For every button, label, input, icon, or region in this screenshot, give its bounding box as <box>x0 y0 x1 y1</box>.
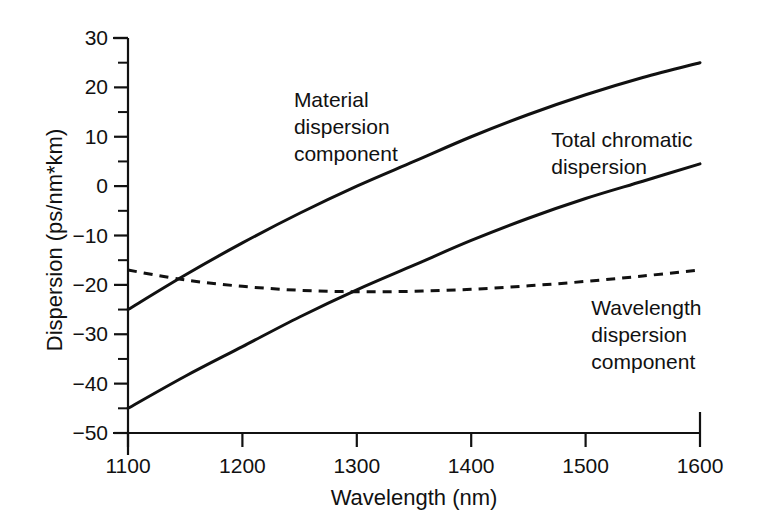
x-tick-label: 1100 <box>105 454 150 477</box>
y-tick-label: −40 <box>72 372 108 395</box>
chart-canvas: 3020100−10−20−30−40−50 11001200130014001… <box>0 0 760 530</box>
y-tick-label: 20 <box>85 75 108 98</box>
y-tick-label: −10 <box>72 224 108 247</box>
x-tick-label: 1300 <box>333 454 380 477</box>
y-tick-label: 30 <box>85 26 108 49</box>
x-axis-title: Wavelength (nm) <box>331 485 498 510</box>
y-tick-label: −50 <box>72 421 108 444</box>
dispersion-chart-figure: 3020100−10−20−30−40−50 11001200130014001… <box>0 0 760 530</box>
wavelength-dispersion-label: Wavelengthdispersioncomponent <box>591 296 701 373</box>
annotation-line: Material <box>294 88 369 111</box>
annotation-line: dispersion <box>551 155 647 178</box>
y-tick-label: −20 <box>72 273 108 296</box>
y-axis-title: Dispersion (ps/nm*km) <box>42 129 67 352</box>
y-tick-label: 10 <box>85 125 108 148</box>
chart-background <box>0 0 760 530</box>
x-tick-label: 1500 <box>562 454 609 477</box>
x-tick-label: 1200 <box>219 454 266 477</box>
annotation-line: component <box>294 142 398 165</box>
annotation-line: component <box>591 350 695 373</box>
annotation-line: dispersion <box>294 115 390 138</box>
x-tick-label: 1400 <box>448 454 495 477</box>
y-tick-label: 0 <box>96 174 108 197</box>
annotation-line: dispersion <box>591 323 687 346</box>
y-tick-label: −30 <box>72 322 108 345</box>
x-tick-label: 1600 <box>677 454 724 477</box>
annotation-line: Wavelength <box>591 296 701 319</box>
annotation-line: Total chromatic <box>551 128 692 151</box>
